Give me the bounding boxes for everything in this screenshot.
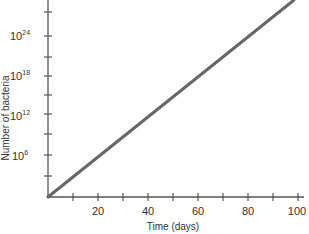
x-tick-label: 60 [192,205,204,217]
y-tick-label: 106 [12,149,28,162]
growth-line [48,0,294,197]
x-tick-label: 100 [288,205,306,217]
x-tick-label: 20 [92,205,104,217]
bacteria-growth-chart: 106 1012 1018 1024 20 40 60 80 100 Time … [0,0,309,234]
y-tick-label: 1012 [10,109,30,122]
y-axis-label: Number of bacteria [0,75,11,160]
y-tick-label: 1024 [10,29,30,42]
x-axis-label: Time (days) [147,221,199,232]
y-tick-label: 1018 [10,69,30,82]
x-tick-label: 40 [142,205,154,217]
x-tick-label: 80 [242,205,254,217]
